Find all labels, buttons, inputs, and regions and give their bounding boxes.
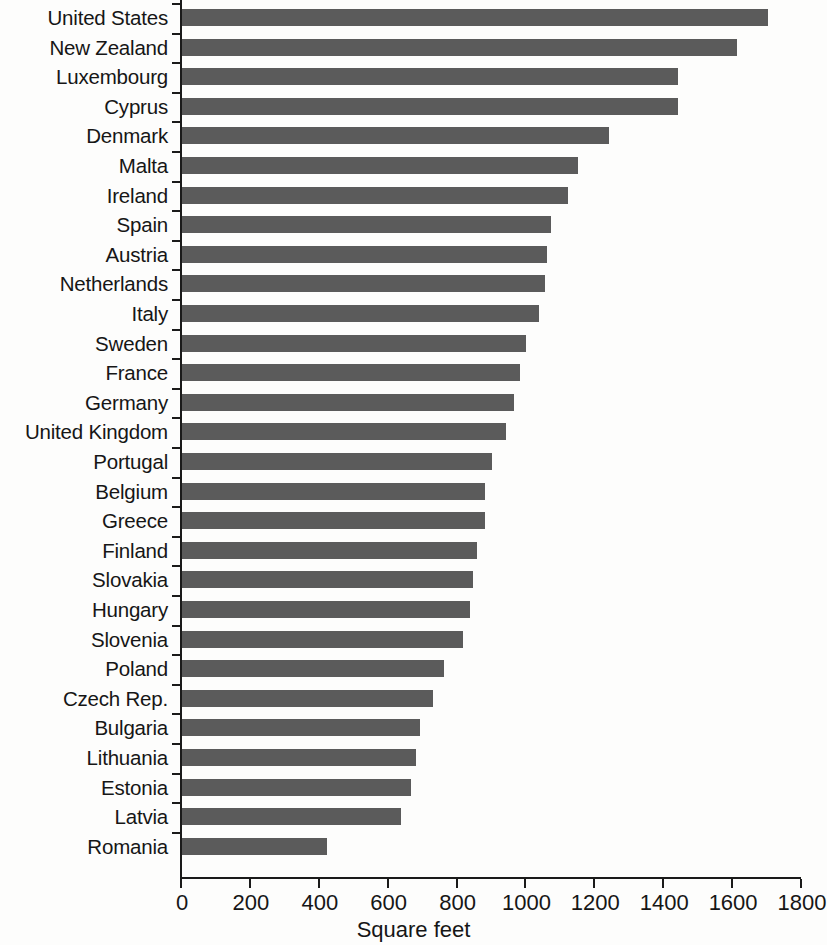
bar-row: Italy — [180, 299, 820, 329]
x-axis-title: Square feet — [0, 917, 827, 943]
category-label: Estonia — [0, 773, 168, 803]
bar-row: Spain — [180, 210, 820, 240]
bar — [182, 542, 477, 559]
bar — [182, 779, 411, 796]
y-axis-tick — [172, 536, 180, 538]
bar — [182, 305, 539, 322]
bar-row: United States — [180, 3, 820, 33]
y-axis-tick — [172, 151, 180, 153]
bar — [182, 601, 470, 618]
category-label: Italy — [0, 299, 168, 329]
x-axis-tick — [731, 879, 733, 888]
bar-row: Cyprus — [180, 92, 820, 122]
y-axis-tick — [172, 33, 180, 35]
y-axis-tick — [172, 832, 180, 834]
bar — [182, 512, 485, 529]
bar — [182, 127, 609, 144]
category-label: Belgium — [0, 477, 168, 507]
bar — [182, 690, 433, 707]
x-axis-tick — [318, 879, 320, 888]
bar — [182, 335, 526, 352]
category-label: United States — [0, 3, 168, 33]
bar-row: Netherlands — [180, 269, 820, 299]
category-label: Malta — [0, 151, 168, 181]
bar-row: Finland — [180, 536, 820, 566]
y-axis-tick — [172, 506, 180, 508]
plot-area: United StatesNew ZealandLuxembourgCyprus… — [180, 0, 820, 878]
bar — [182, 216, 551, 233]
category-label: Netherlands — [0, 269, 168, 299]
bar-row: United Kingdom — [180, 417, 820, 447]
bar — [182, 187, 568, 204]
bar — [182, 39, 737, 56]
bar-row: Portugal — [180, 447, 820, 477]
y-axis-tick — [172, 3, 180, 5]
bar-row: Greece — [180, 506, 820, 536]
category-label: Lithuania — [0, 743, 168, 773]
x-axis-tick — [387, 879, 389, 888]
bar-row: Malta — [180, 151, 820, 181]
y-axis-tick — [172, 299, 180, 301]
category-label: Luxembourg — [0, 62, 168, 92]
bar-chart: United StatesNew ZealandLuxembourgCyprus… — [0, 0, 827, 945]
x-axis-tick — [800, 879, 802, 888]
y-axis-tick — [172, 329, 180, 331]
x-axis-tick-label: 1800 — [742, 890, 827, 916]
y-axis-tick — [172, 684, 180, 686]
y-axis-tick — [172, 358, 180, 360]
y-axis-tick — [172, 269, 180, 271]
bar — [182, 157, 578, 174]
y-axis-tick — [172, 388, 180, 390]
y-axis-tick — [172, 210, 180, 212]
category-label: Poland — [0, 654, 168, 684]
y-axis-tick — [172, 595, 180, 597]
category-label: Hungary — [0, 595, 168, 625]
category-label: Greece — [0, 506, 168, 536]
bar-row: Hungary — [180, 595, 820, 625]
bar-row: Czech Rep. — [180, 684, 820, 714]
bar — [182, 660, 444, 677]
bar-row: France — [180, 358, 820, 388]
category-label: Spain — [0, 210, 168, 240]
bar — [182, 631, 463, 648]
bar-row: Poland — [180, 654, 820, 684]
category-label: Finland — [0, 536, 168, 566]
x-axis-tick — [524, 879, 526, 888]
bar — [182, 453, 492, 470]
y-axis-tick — [172, 565, 180, 567]
bar — [182, 719, 420, 736]
y-axis-tick — [172, 417, 180, 419]
y-axis-tick — [172, 713, 180, 715]
bar-row: Estonia — [180, 773, 820, 803]
bar — [182, 68, 678, 85]
bar-row: Latvia — [180, 802, 820, 832]
bar-row: Sweden — [180, 329, 820, 359]
bar-row: Lithuania — [180, 743, 820, 773]
bar — [182, 808, 401, 825]
x-axis-tick — [662, 879, 664, 888]
category-label: Ireland — [0, 181, 168, 211]
y-axis-tick — [172, 625, 180, 627]
bar-row: Bulgaria — [180, 713, 820, 743]
y-axis-tick — [172, 92, 180, 94]
y-axis-tick — [172, 654, 180, 656]
category-label: Cyprus — [0, 92, 168, 122]
x-axis-tick — [593, 879, 595, 888]
bar-row: Germany — [180, 388, 820, 418]
category-label: Portugal — [0, 447, 168, 477]
bar — [182, 483, 485, 500]
y-axis-tick — [172, 121, 180, 123]
bar — [182, 571, 473, 588]
bar — [182, 98, 678, 115]
category-label: France — [0, 358, 168, 388]
y-axis-tick — [172, 802, 180, 804]
category-label: Denmark — [0, 121, 168, 151]
x-axis-tick — [180, 879, 182, 888]
category-label: Bulgaria — [0, 713, 168, 743]
y-axis-tick — [172, 240, 180, 242]
category-label: Slovakia — [0, 565, 168, 595]
category-label: Romania — [0, 832, 168, 862]
bar — [182, 749, 416, 766]
y-axis-tick — [172, 477, 180, 479]
x-axis-tick — [456, 879, 458, 888]
